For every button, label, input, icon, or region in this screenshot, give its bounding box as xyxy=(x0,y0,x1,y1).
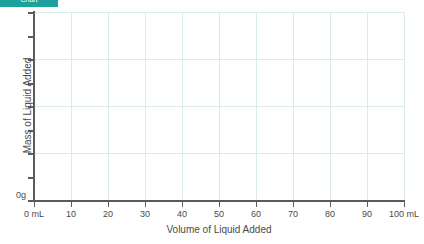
y-axis-title: Mass of Liquid Added xyxy=(22,26,33,186)
chart-figure: 0 mL102030405060708090100 mL 0g Volume o… xyxy=(0,0,424,244)
x-axis-tick-label: 90 xyxy=(362,209,372,219)
x-axis-tick xyxy=(330,202,331,207)
x-axis-tick-label: 50 xyxy=(214,209,224,219)
x-axis-tick-label: 20 xyxy=(103,209,113,219)
x-axis-tick-label: 100 mL xyxy=(389,209,419,219)
x-axis-tick-label: 70 xyxy=(288,209,298,219)
x-axis-tick-label: 10 xyxy=(66,209,76,219)
x-axis-tick xyxy=(256,202,257,207)
y-axis-tick xyxy=(28,200,34,202)
plot-area xyxy=(34,12,404,200)
y-axis-tick-label-zero: 0g xyxy=(10,190,26,200)
x-axis-tick xyxy=(293,202,294,207)
gridline-horizontal xyxy=(34,59,404,60)
x-axis-tick-label: 60 xyxy=(251,209,261,219)
x-axis-title: Volume of Liquid Added xyxy=(34,224,404,235)
x-axis-tick xyxy=(182,202,183,207)
gridline-horizontal xyxy=(34,106,404,107)
x-axis-tick-label: 0 mL xyxy=(24,209,44,219)
x-axis-tick xyxy=(404,202,405,207)
x-axis-tick-label: 40 xyxy=(177,209,187,219)
gridline-vertical xyxy=(404,12,405,200)
x-axis-tick-label: 80 xyxy=(325,209,335,219)
x-axis-tick xyxy=(71,202,72,207)
gridline-horizontal xyxy=(34,153,404,154)
x-axis-tick-label: 30 xyxy=(140,209,150,219)
gridline-horizontal xyxy=(34,12,404,13)
x-axis-tick xyxy=(34,202,35,207)
y-axis-tick xyxy=(28,12,34,14)
x-axis-tick xyxy=(145,202,146,207)
x-axis-tick xyxy=(108,202,109,207)
x-axis-tick xyxy=(219,202,220,207)
x-axis-tick xyxy=(367,202,368,207)
